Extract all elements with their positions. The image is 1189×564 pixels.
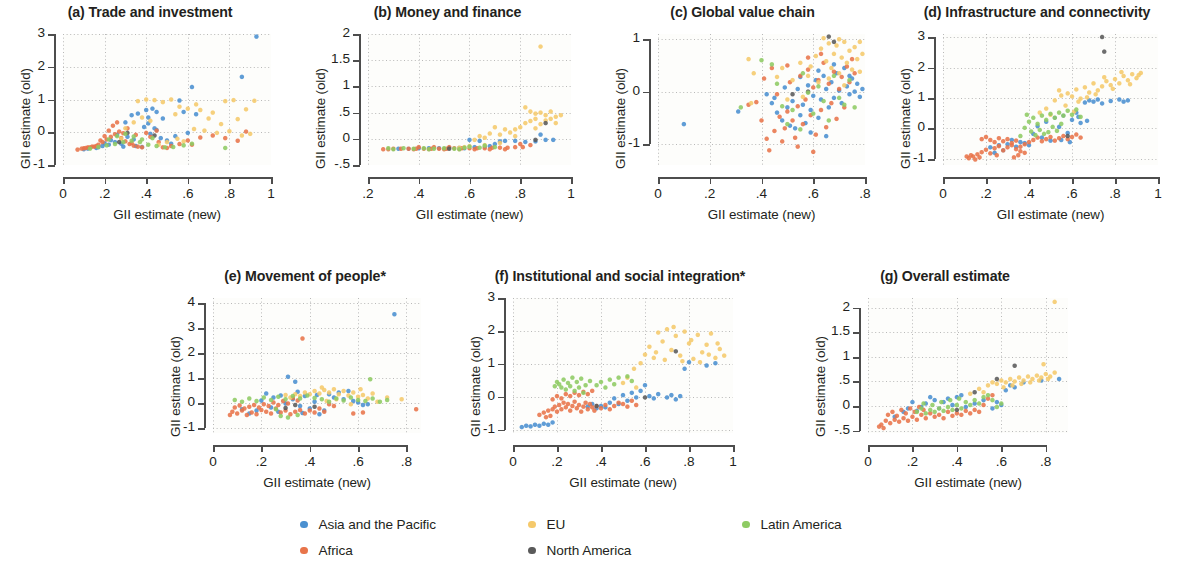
y-tick-b-5 (353, 34, 360, 36)
legend-item-asia: Asia and the Pacific (300, 517, 436, 532)
scatter-canvas-f (513, 298, 733, 433)
plot-area-b (368, 34, 571, 165)
y-axis-spine-e (204, 303, 206, 428)
y-tick-f-1 (498, 397, 505, 399)
y-tick-g-3 (853, 357, 860, 359)
x-tick-label-a-5: 1 (251, 186, 291, 201)
y-tick-label-f-1: 0 (487, 388, 495, 403)
y-tick-d-1 (928, 128, 935, 130)
x-tick-c-1 (710, 177, 712, 184)
y-tick-label-b-5: 2 (342, 25, 350, 40)
legend-dot-asia (300, 521, 308, 529)
y-tick-e-0 (198, 428, 205, 430)
y-tick-label-c-2: 1 (632, 30, 640, 45)
x-tick-b-1 (419, 177, 421, 184)
y-tick-label-b-3: 1 (342, 77, 350, 92)
y-tick-a-0 (48, 165, 55, 167)
y-tick-label-b-0: -.5 (334, 156, 350, 171)
x-axis-title-f: GII estimate (new) (493, 475, 753, 490)
x-tick-e-0 (213, 445, 215, 452)
x-axis-title-c: GII estimate (new) (638, 207, 885, 222)
x-tick-a-5 (271, 177, 273, 184)
x-tick-label-f-1: .2 (537, 454, 577, 469)
x-tick-label-f-0: 0 (493, 454, 533, 469)
x-tick-label-d-4: .8 (1095, 186, 1135, 201)
legend-item-north_america: North America (528, 543, 631, 558)
y-tick-label-e-0: -1 (183, 419, 195, 434)
panel-title-e: (e) Movement of people* (155, 268, 455, 284)
y-axis-title-d: GII estimate (old) (898, 68, 913, 169)
x-tick-d-3 (1072, 177, 1074, 184)
x-tick-label-c-0: 0 (638, 186, 678, 201)
y-tick-label-c-1: 0 (632, 83, 640, 98)
y-tick-b-2 (353, 113, 360, 115)
chart-panel-c: (c) Global value chain-1010.2.4.6.8GII e… (600, 4, 885, 219)
x-tick-d-2 (1029, 177, 1031, 184)
x-tick-label-g-1: .2 (892, 454, 932, 469)
panel-title-c: (c) Global value chain (600, 4, 885, 20)
y-tick-label-c-0: -1 (628, 135, 640, 150)
x-tick-label-f-5: 1 (713, 454, 753, 469)
x-tick-label-c-1: .2 (690, 186, 730, 201)
x-tick-label-g-0: 0 (848, 454, 888, 469)
x-tick-label-e-3: .6 (338, 454, 378, 469)
y-tick-b-0 (353, 165, 360, 167)
y-tick-e-1 (198, 403, 205, 405)
x-tick-label-f-3: .6 (625, 454, 665, 469)
y-tick-d-3 (928, 68, 935, 70)
scatter-canvas-d (943, 34, 1158, 165)
y-tick-label-b-2: .5 (339, 104, 350, 119)
x-tick-label-e-4: .8 (386, 454, 426, 469)
y-tick-g-5 (853, 308, 860, 310)
chart-panel-d: (d) Infrastructure and connectivity-1012… (885, 4, 1189, 219)
legend-dot-eu (528, 521, 536, 529)
panel-title-f: (f) Institutional and social integration… (455, 268, 785, 284)
x-tick-b-2 (470, 177, 472, 184)
chart-panel-e: (e) Movement of people*-1012340.2.4.6.8G… (155, 268, 455, 493)
x-tick-label-a-1: .2 (85, 186, 125, 201)
y-tick-label-g-0: -.5 (834, 422, 850, 437)
y-tick-label-f-3: 2 (487, 322, 495, 337)
y-tick-g-2 (853, 381, 860, 383)
panel-title-d: (d) Infrastructure and connectivity (885, 4, 1189, 20)
y-tick-d-0 (928, 159, 935, 161)
x-tick-label-b-4: 1 (551, 186, 591, 201)
x-tick-label-a-3: .6 (168, 186, 208, 201)
plot-area-d (943, 34, 1158, 165)
y-tick-e-4 (198, 328, 205, 330)
legend-dot-africa (300, 547, 308, 555)
legend-label-asia: Asia and the Pacific (319, 517, 436, 532)
y-tick-label-a-0: -1 (33, 156, 45, 171)
legend-dot-latin_america (742, 521, 750, 529)
x-tick-f-1 (557, 445, 559, 452)
y-tick-b-3 (353, 86, 360, 88)
plot-area-g (868, 298, 1068, 433)
y-tick-f-4 (498, 298, 505, 300)
x-tick-label-c-3: .6 (793, 186, 833, 201)
y-tick-label-a-4: 3 (37, 25, 45, 40)
x-tick-e-2 (310, 445, 312, 452)
y-tick-a-2 (48, 100, 55, 102)
x-tick-f-0 (513, 445, 515, 452)
y-tick-label-g-2: .5 (839, 372, 850, 387)
y-axis-spine-b (359, 34, 361, 165)
plot-area-c (658, 34, 865, 165)
y-tick-c-1 (643, 92, 650, 94)
y-tick-g-4 (853, 332, 860, 334)
x-tick-e-3 (358, 445, 360, 452)
legend-dot-north_america (528, 547, 536, 555)
x-tick-c-2 (762, 177, 764, 184)
legend-item-eu: EU (528, 517, 565, 532)
x-tick-g-0 (868, 445, 870, 452)
x-tick-d-4 (1115, 177, 1117, 184)
y-tick-label-e-4: 3 (187, 319, 195, 334)
x-tick-c-0 (658, 177, 660, 184)
y-tick-label-g-3: 1 (842, 348, 850, 363)
y-tick-f-3 (498, 331, 505, 333)
x-tick-g-1 (912, 445, 914, 452)
y-tick-label-e-3: 2 (187, 344, 195, 359)
y-tick-label-e-2: 1 (187, 369, 195, 384)
x-axis-title-g: GII estimate (new) (848, 475, 1088, 490)
x-tick-g-4 (1046, 445, 1048, 452)
y-axis-title-b: GII estimate (old) (313, 68, 328, 169)
